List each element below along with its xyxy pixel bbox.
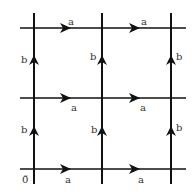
a-labels: a a a a a a: [65, 16, 147, 185]
edge-label-a: a: [71, 102, 77, 113]
edge-label-b: b: [176, 51, 182, 62]
lattice-diagram: a a a a a a b b b b b b 0̃: [0, 0, 195, 194]
edge-label-a: a: [141, 16, 147, 27]
edge-label-b: b: [91, 124, 97, 135]
edge-label-a: a: [65, 174, 71, 185]
edge-label-b: b: [176, 122, 182, 133]
origin-label: 0̃: [22, 174, 28, 185]
edge-label-b: b: [21, 54, 27, 65]
edge-label-a: a: [138, 174, 144, 185]
edge-label-a: a: [68, 16, 74, 27]
edge-label-b: b: [90, 51, 96, 62]
edge-label-b: b: [21, 124, 27, 135]
edge-label-a: a: [140, 102, 146, 113]
